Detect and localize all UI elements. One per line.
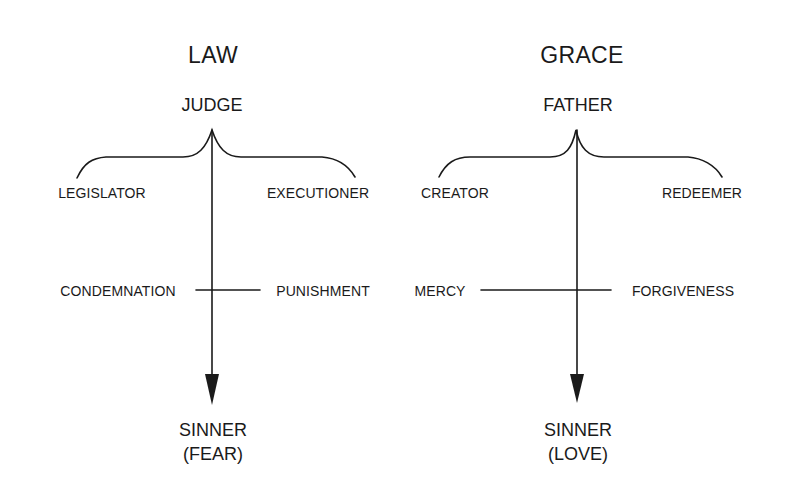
grace-crossbar-right: FORGIVENESS: [632, 284, 734, 298]
law-brace: [77, 130, 355, 178]
grace-role-left: CREATOR: [421, 186, 489, 200]
grace-target-response: (LOVE): [544, 442, 612, 466]
law-crossbar-left: CONDEMNATION: [60, 284, 175, 298]
law-role-left: LEGISLATOR: [58, 186, 146, 200]
grace-target-label: SINNER: [544, 418, 612, 442]
grace-target: SINNER (LOVE): [544, 418, 612, 466]
law-role-right: EXECUTIONER: [267, 186, 369, 200]
law-target: SINNER (FEAR): [179, 418, 247, 466]
grace-brace: [439, 130, 722, 177]
law-crossbar-right: PUNISHMENT: [276, 284, 370, 298]
law-head-judge: JUDGE: [181, 96, 242, 114]
grace-crossbar-left: MERCY: [414, 284, 465, 298]
connector-lines: [0, 0, 793, 500]
grace-head-father: FATHER: [543, 96, 613, 114]
grace-title: GRACE: [540, 44, 623, 67]
grace-arrowhead-icon: [570, 374, 584, 403]
law-arrowhead-icon: [205, 374, 219, 405]
grace-role-right: REDEEMER: [662, 186, 742, 200]
law-target-label: SINNER: [179, 418, 247, 442]
law-vs-grace-diagram: LAW JUDGE LEGISLATOR EXECUTIONER CONDEMN…: [0, 0, 793, 500]
law-target-response: (FEAR): [179, 442, 247, 466]
law-title: LAW: [188, 44, 238, 67]
